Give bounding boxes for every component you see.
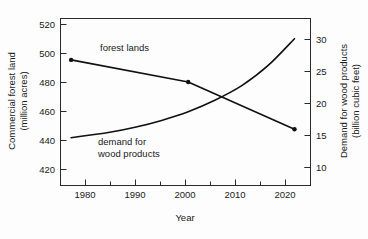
y-left-tick-label-420: 420 <box>39 164 55 175</box>
y-left-axis-title-line1: Commercial forest land <box>6 52 17 150</box>
x-tick-label-2010: 2010 <box>224 189 245 200</box>
y-right-tick-label-10: 10 <box>316 162 327 173</box>
chart-container: 520 500 480 460 440 420 Commercial fores… <box>0 0 368 239</box>
annotation-demand-line1: demand for <box>98 136 146 147</box>
annotation-demand-line2: wood products <box>97 148 160 159</box>
chart-background <box>0 0 368 239</box>
y-left-tick-label-440: 440 <box>39 135 55 146</box>
y-left-axis-title-line2: (million acres) <box>18 71 29 130</box>
data-point-marker <box>69 58 73 62</box>
line-chart: 520 500 480 460 440 420 Commercial fores… <box>0 0 368 239</box>
data-point-marker <box>292 127 296 131</box>
annotation-forest-lands: forest lands <box>100 42 149 53</box>
x-tick-label-2000: 2000 <box>174 189 195 200</box>
x-tick-label-1980: 1980 <box>74 189 95 200</box>
y-right-tick-label-25: 25 <box>316 66 327 77</box>
y-right-axis-title-line1: Demand for wood products <box>338 44 349 158</box>
y-right-tick-label-30: 30 <box>316 34 327 45</box>
x-tick-label-1990: 1990 <box>124 189 145 200</box>
y-left-tick-label-500: 500 <box>39 48 55 59</box>
y-right-tick-label-15: 15 <box>316 130 327 141</box>
x-axis-title: Year <box>175 212 194 223</box>
y-left-tick-label-460: 460 <box>39 106 55 117</box>
y-left-tick-label-480: 480 <box>39 77 55 88</box>
y-right-tick-label-20: 20 <box>316 98 327 109</box>
y-right-axis-title-line2: (billion cubic feet) <box>350 64 361 138</box>
y-left-tick-label-520: 520 <box>39 19 55 30</box>
data-point-marker <box>186 80 190 84</box>
x-tick-label-2020: 2020 <box>274 189 295 200</box>
